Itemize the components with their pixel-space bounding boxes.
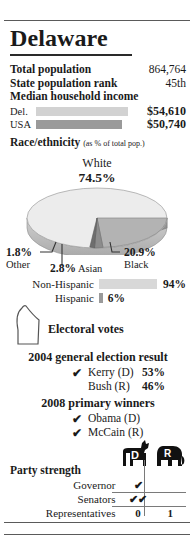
table-row: Governor ✔ — [8, 478, 186, 492]
party-cell-d: ✔✔ — [122, 493, 155, 506]
hispanic-bar-label: Non-Hispanic — [10, 278, 99, 290]
income-bar-row-del: Del. $54,610 — [10, 106, 186, 117]
callout-name: Asian — [78, 263, 103, 274]
race-heading-text: Race/ethnicity — [10, 136, 80, 148]
party-cell-d: ✔ — [122, 479, 155, 492]
party-cell-r: 1 — [155, 507, 186, 519]
callout-pct: 2.8% — [50, 262, 76, 274]
pie-callout-other: 1.8% Other — [6, 246, 32, 271]
party-strength-table: Governor ✔ Senators ✔✔ Representatives 0… — [8, 478, 186, 520]
stat-value: 864,764 — [149, 62, 186, 76]
elephant-letter: R — [164, 448, 172, 459]
electoral-votes-label: Electoral votes — [48, 322, 124, 337]
income-bar-row-usa: USA $50,740 — [10, 119, 186, 130]
stat-row-population-rank: State population rank 45th — [10, 76, 186, 90]
pie-callout-black: 20.9% Black — [124, 246, 156, 271]
income-bar-fill — [36, 120, 122, 129]
top-divider — [4, 20, 190, 21]
winner-check-icon: ✔ — [72, 412, 82, 427]
donkey-icon: D — [122, 440, 154, 470]
candidate-row-bush: Bush (R) 46% — [10, 380, 186, 394]
hispanic-bar-row-non-hispanic: Non-Hispanic 94% — [10, 278, 186, 290]
median-income-heading: Median household income — [10, 90, 186, 102]
callout-name: Other — [6, 259, 32, 271]
pie-white-pct: 74.5% — [0, 170, 194, 186]
income-bar-label: USA — [10, 119, 36, 130]
primary-winner-name: Obama (D) — [88, 412, 140, 424]
candidate-pct: 46% — [142, 380, 165, 392]
page-title: Delaware — [10, 26, 186, 51]
winner-check-icon: ✔ — [72, 366, 82, 381]
primary-winners-heading: 2008 primary winners — [10, 396, 186, 411]
party-row-label: Representatives — [8, 507, 122, 519]
general-election-heading: 2004 general election result — [10, 350, 186, 365]
party-row-label: Governor — [8, 479, 122, 491]
hispanic-bar-fill — [99, 293, 103, 303]
winner-check-icon: ✔ — [72, 426, 82, 441]
pie-callout-asian: 2.8%Asian — [50, 262, 102, 275]
callout-pct: 1.8% — [6, 246, 32, 259]
primary-winner-name: McCain (R) — [88, 426, 143, 438]
table-row: Senators ✔✔ — [8, 492, 186, 506]
stat-label: State population rank — [10, 76, 117, 90]
callout-pct: 20.9% — [124, 246, 156, 259]
callout-name: Black — [124, 259, 156, 271]
hispanic-bar-value: 6% — [108, 292, 125, 304]
electoral-votes-row: 3 Electoral votes — [10, 322, 186, 337]
title-underline — [10, 54, 132, 56]
hispanic-bar-fill — [99, 279, 157, 289]
elephant-icon: R — [156, 444, 188, 470]
race-heading-caption: (as % of total pop.) — [83, 139, 145, 148]
candidate-row-kerry: ✔ Kerry (D) 53% — [10, 366, 186, 380]
candidate-name: Kerry (D) — [88, 366, 134, 378]
state-fact-card: Delaware Total population 864,764 State … — [0, 0, 194, 550]
stat-row-total-population: Total population 864,764 — [10, 62, 186, 76]
bottom-divider-2 — [4, 534, 190, 535]
candidate-name: Bush (R) — [88, 380, 130, 392]
income-bar-fill — [36, 107, 128, 116]
race-ethnicity-heading: Race/ethnicity (as % of total pop.) — [10, 136, 186, 148]
stat-value: 45th — [166, 76, 186, 90]
party-row-label: Senators — [8, 493, 122, 505]
stat-label: Total population — [10, 62, 91, 76]
party-strength-heading: Party strength — [10, 464, 81, 476]
donkey-letter: D — [131, 449, 139, 461]
hispanic-bar-value: 94% — [163, 278, 186, 290]
pie-white-label: White — [0, 156, 194, 171]
table-row: Representatives 0 1 — [8, 506, 186, 520]
income-bar-value: $50,740 — [147, 117, 186, 132]
bottom-divider-1 — [4, 522, 190, 523]
income-bar-label: Del. — [10, 106, 36, 117]
party-cell-d: 0 — [122, 507, 155, 519]
candidate-pct: 53% — [142, 366, 165, 378]
